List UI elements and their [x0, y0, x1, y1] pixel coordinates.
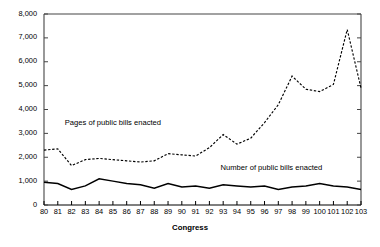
y-axis-tick-label: 7,000: [0, 33, 37, 41]
y-axis-tick-label: 6,000: [0, 57, 37, 65]
y-axis-tick-label: 1,000: [0, 177, 37, 185]
chart-figure: 01,0002,0003,0004,0005,0006,0007,0008,00…: [0, 0, 380, 247]
series-label-2: Number of public bills enacted: [221, 163, 323, 172]
y-axis-tick-label: 2,000: [0, 153, 37, 161]
series-label-1: Pages of public bills enacted: [65, 118, 161, 127]
series-pages-of-public-bills-enacted: [44, 30, 361, 166]
axis-frame: [44, 14, 361, 205]
x-axis-title: Congress: [0, 223, 380, 232]
y-axis-ticks: [44, 14, 48, 205]
y-axis-tick-label: 8,000: [0, 10, 37, 18]
y-axis-tick-label: 3,000: [0, 129, 37, 137]
y-axis-tick-label: 0: [0, 201, 37, 209]
x-axis-tick-label: 103: [353, 208, 369, 216]
series-number-of-public-bills-enacted: [44, 179, 361, 190]
y-axis-tick-label: 4,000: [0, 105, 37, 113]
y-axis-ticks-right: [357, 14, 361, 205]
y-axis-tick-label: 5,000: [0, 81, 37, 89]
